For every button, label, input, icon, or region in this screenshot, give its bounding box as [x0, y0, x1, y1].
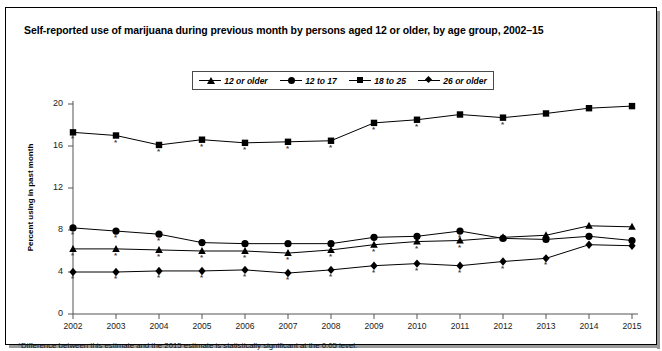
x-tick-label: 2002 — [53, 321, 93, 331]
legend-item-12-to-17[interactable]: 12 to 17 — [279, 76, 338, 86]
significance-asterisk: * — [157, 237, 160, 245]
significance-asterisk: * — [243, 254, 246, 262]
legend-swatch-circle — [280, 76, 302, 85]
data-point — [585, 233, 592, 240]
significance-asterisk: * — [329, 273, 332, 281]
x-tick-label: 2007 — [268, 321, 308, 331]
y-axis-label: Percent using in past month — [26, 128, 35, 268]
data-point — [413, 233, 420, 240]
legend-swatch-diamond — [418, 76, 440, 85]
significance-asterisk: * — [200, 254, 203, 262]
significance-asterisk: * — [157, 274, 160, 282]
significance-asterisk: * — [157, 253, 160, 261]
significance-asterisk: * — [372, 126, 375, 134]
data-point — [585, 222, 593, 229]
y-tick-label: 4 — [41, 266, 63, 276]
data-point — [327, 240, 334, 247]
x-tick-label: 2014 — [569, 321, 609, 331]
data-point — [585, 241, 592, 249]
x-tick-label: 2004 — [139, 321, 179, 331]
significance-asterisk: * — [329, 144, 332, 152]
significance-asterisk: * — [114, 252, 117, 260]
significance-asterisk: * — [372, 248, 375, 256]
x-tick-label: 2010 — [397, 321, 437, 331]
x-tick-label: 2009 — [354, 321, 394, 331]
legend-swatch-triangle — [199, 76, 221, 85]
significance-asterisk: * — [243, 273, 246, 281]
legend-swatch-square — [349, 76, 371, 85]
significance-asterisk: * — [415, 245, 418, 253]
x-tick-label: 2003 — [96, 321, 136, 331]
page-title: Self-reported use of marijuana during pr… — [24, 24, 644, 37]
x-tick-label: 2012 — [483, 321, 523, 331]
significance-asterisk: * — [243, 146, 246, 154]
significance-asterisk: * — [286, 276, 289, 284]
significance-asterisk: * — [329, 253, 332, 261]
data-point — [543, 110, 549, 116]
data-point — [629, 103, 635, 109]
x-tick-label: 2011 — [440, 321, 480, 331]
chart-footnote: *Difference between this estimate and th… — [18, 341, 357, 350]
legend-label: 12 to 17 — [305, 76, 337, 86]
data-point — [284, 240, 291, 247]
significance-asterisk: * — [200, 143, 203, 151]
significance-asterisk: * — [200, 274, 203, 282]
legend-item-12-or-older[interactable]: 12 or older — [198, 76, 268, 86]
legend-label: 12 or older — [224, 76, 267, 86]
chart-page: Self-reported use of marijuana during pr… — [0, 0, 662, 351]
x-tick-label: 2008 — [311, 321, 351, 331]
chart-legend: 12 or older 12 to 17 18 to 25 26 or olde… — [192, 71, 494, 90]
data-point — [499, 235, 506, 242]
significance-asterisk: * — [415, 123, 418, 131]
significance-asterisk: * — [372, 269, 375, 277]
chart-frame: Self-reported use of marijuana during pr… — [5, 7, 657, 345]
legend-label: 26 or older — [443, 76, 486, 86]
significance-asterisk: * — [114, 139, 117, 147]
significance-asterisk: * — [415, 267, 418, 275]
data-point — [586, 105, 592, 111]
x-tick-label: 2015 — [612, 321, 652, 331]
significance-asterisk: * — [501, 121, 504, 129]
y-tick-label: 12 — [41, 182, 63, 192]
significance-asterisk: * — [286, 145, 289, 153]
data-point — [457, 111, 463, 117]
y-tick-label: 8 — [41, 224, 63, 234]
significance-asterisk: * — [157, 148, 160, 156]
data-point — [370, 234, 377, 241]
legend-item-26-or-older[interactable]: 26 or older — [417, 76, 487, 86]
significance-asterisk: * — [458, 269, 461, 277]
data-point — [542, 236, 549, 243]
significance-asterisk: * — [458, 234, 461, 242]
data-point — [198, 239, 205, 246]
significance-asterisk: * — [71, 231, 74, 239]
significance-asterisk: * — [71, 275, 74, 283]
data-point — [241, 240, 248, 247]
significance-asterisk: * — [71, 252, 74, 260]
significance-asterisk: * — [286, 256, 289, 264]
x-tick-label: 2013 — [526, 321, 566, 331]
chart-canvas — [6, 8, 658, 346]
x-tick-label: 2005 — [182, 321, 222, 331]
significance-asterisk: * — [114, 275, 117, 283]
significance-asterisk: * — [71, 135, 74, 143]
significance-asterisk: * — [114, 234, 117, 242]
significance-asterisk: * — [458, 244, 461, 252]
y-tick-label: 0 — [41, 308, 63, 318]
legend-label: 18 to 25 — [374, 76, 406, 86]
significance-asterisk: * — [544, 261, 547, 269]
y-tick-label: 16 — [41, 140, 63, 150]
y-tick-label: 20 — [41, 98, 63, 108]
significance-asterisk: * — [501, 265, 504, 273]
legend-item-18-to-25[interactable]: 18 to 25 — [348, 76, 407, 86]
x-tick-label: 2006 — [225, 321, 265, 331]
